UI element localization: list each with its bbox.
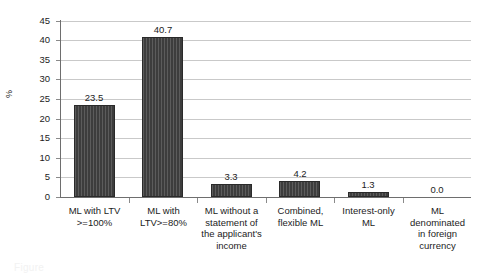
gridline [60, 177, 471, 178]
y-tick-label: 25 [26, 94, 50, 104]
x-axis-label-line: flexible ML [266, 217, 335, 229]
x-axis-label-line: ML [403, 205, 472, 217]
x-axis-label: ML without astatement ofthe applicant'si… [197, 205, 266, 251]
x-tick-mark [129, 198, 130, 203]
x-axis-label-line: in foreign [403, 228, 472, 240]
x-axis-label-line: statement of [197, 217, 266, 229]
gridline [60, 138, 471, 139]
x-axis-label: ML with LTV>=100% [60, 205, 129, 228]
x-tick-mark [334, 198, 335, 203]
x-axis-label: MLdenominatedin foreigncurrency [403, 205, 472, 251]
gridline [60, 99, 471, 100]
bar [142, 37, 183, 197]
bar [74, 105, 115, 197]
bar-chart: % 454035302520151050 23.540.73.34.21.30.… [0, 0, 481, 275]
x-axis-label-line: ML without a [197, 205, 266, 217]
y-axis-line [60, 20, 61, 198]
y-tick-label: 30 [26, 74, 50, 84]
x-axis-label-line: LTV>=80% [129, 217, 198, 229]
bar-value-label: 0.0 [412, 184, 462, 195]
bar-value-label: 23.5 [69, 92, 119, 103]
x-tick-mark [403, 198, 404, 203]
x-axis-label: Interest-onlyML [334, 205, 403, 228]
x-axis-label: ML withLTV>=80% [129, 205, 198, 228]
x-tick-mark [266, 198, 267, 203]
x-axis-label-line: ML with LTV [60, 205, 129, 217]
bar-value-label: 1.3 [343, 179, 393, 190]
gridline [60, 79, 471, 80]
bar [348, 192, 389, 197]
y-tick-label: 10 [26, 153, 50, 163]
x-axis-label-line: currency [403, 240, 472, 252]
x-axis-label-line: Interest-only [334, 205, 403, 217]
gridline [60, 40, 471, 41]
bar [211, 184, 252, 197]
y-tick-label: 15 [26, 133, 50, 143]
y-tick-label: 20 [26, 114, 50, 124]
gridline [60, 60, 471, 61]
y-tick-label: 5 [26, 172, 50, 182]
x-axis-label-line: ML [334, 217, 403, 229]
y-axis-title: % [4, 90, 14, 98]
bar [279, 181, 320, 197]
gridline [60, 21, 471, 22]
y-tick-label: 45 [26, 16, 50, 26]
bar-value-label: 3.3 [206, 171, 256, 182]
y-tick-label: 35 [26, 55, 50, 65]
gridline [60, 158, 471, 159]
x-axis-label-line: denominated [403, 217, 472, 229]
gridline [60, 119, 471, 120]
x-axis-label: Combined,flexible ML [266, 205, 335, 228]
y-tick-label: 0 [26, 192, 50, 202]
figure-caption: Figure [14, 262, 44, 273]
bar-value-label: 4.2 [275, 168, 325, 179]
x-axis-label-line: the applicant's [197, 228, 266, 240]
bar-value-label: 40.7 [138, 24, 188, 35]
y-tick-label: 40 [26, 35, 50, 45]
x-axis-label-line: ML with [129, 205, 198, 217]
x-axis-label-line: >=100% [60, 217, 129, 229]
x-axis-label-line: income [197, 240, 266, 252]
x-tick-mark [197, 198, 198, 203]
x-axis-label-line: Combined, [266, 205, 335, 217]
